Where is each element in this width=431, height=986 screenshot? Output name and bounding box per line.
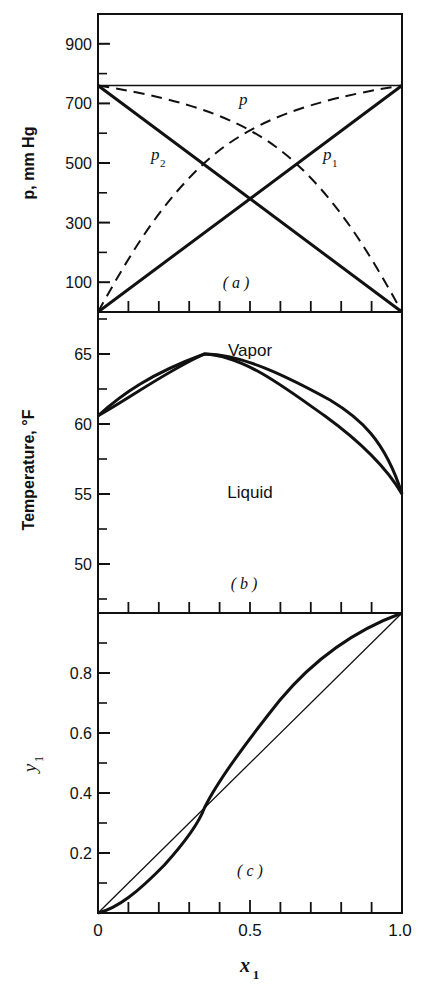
- x-axis-label-base: x: [239, 954, 250, 976]
- panel-c-ytick-02: 0.2: [70, 845, 92, 862]
- panel-c-ylabel: y 1: [19, 756, 46, 774]
- panel-a-y-major-ticks: [98, 44, 110, 282]
- panel-c-ylabel-base: y: [19, 763, 40, 774]
- panel-a-x-ticks: [128, 301, 371, 312]
- x-axis-label: x 1: [239, 954, 259, 982]
- panel-a-ytick-300: 300: [65, 215, 92, 232]
- panel-a-ylabel-text: p, mm Hg: [20, 127, 37, 200]
- panel-a-ytick-100: 100: [65, 274, 92, 291]
- panel-b-ylabel-text: Temperature, °F: [20, 409, 37, 530]
- panel-c-x-ticks: [128, 900, 371, 913]
- panel-c: 0.2 0.4 0.6 0.8 ( c ) y 1: [19, 613, 402, 913]
- panel-b-tag: ( b ): [231, 575, 258, 593]
- panel-c-tag: ( c ): [237, 862, 263, 880]
- panel-c-ylabel-sub: 1: [32, 756, 46, 762]
- panel-b-y-minor-ticks: [98, 319, 107, 599]
- panel-a-frame: [98, 14, 402, 312]
- panel-b-ytick-50: 50: [74, 556, 92, 573]
- x-axis: 0 0.5 1.0 x 1: [93, 921, 412, 982]
- panel-b-dew-point-curve: [98, 354, 402, 494]
- panel-a-label-p2: p 2: [150, 145, 166, 169]
- xtick-10: 1.0: [388, 921, 412, 940]
- panel-a-label-p: p: [238, 90, 248, 109]
- xtick-0: 0: [93, 921, 102, 940]
- panel-b-ytick-55: 55: [74, 486, 92, 503]
- x-axis-label-sub: 1: [253, 967, 260, 982]
- panel-a-tag: ( a ): [223, 274, 250, 292]
- panel-b-label-vapor: Vapor: [228, 341, 272, 360]
- panel-c-ytick-04: 0.4: [70, 785, 92, 802]
- panel-a: 100 300 500 700 900 p p: [20, 14, 402, 312]
- panel-b-ylabel: Temperature, °F: [20, 409, 37, 530]
- panel-a-ytick-500: 500: [65, 155, 92, 172]
- vle-figure: 100 300 500 700 900 p p: [0, 0, 431, 986]
- panel-c-y-minor-ticks: [98, 643, 107, 883]
- panel-b-label-liquid: Liquid: [227, 483, 272, 502]
- panel-b-ytick-60: 60: [74, 416, 92, 433]
- panel-a-ylabel: p, mm Hg: [20, 127, 37, 200]
- panel-b-x-ticks: [128, 602, 371, 613]
- panel-a-label-p2-sub: 2: [160, 157, 166, 169]
- panel-a-label-p1-base: p: [322, 145, 332, 164]
- panel-a-ytick-900: 900: [65, 36, 92, 53]
- figure-svg: 100 300 500 700 900 p p: [0, 0, 431, 986]
- panel-b-bubble-point-curve: [98, 354, 402, 494]
- panel-a-ytick-700: 700: [65, 95, 92, 112]
- panel-b-ytick-65: 65: [74, 346, 92, 363]
- panel-b: 50 55 60 65 Vapor Liquid ( b ) Temperatu…: [20, 312, 402, 613]
- panel-a-label-p2-base: p: [150, 145, 160, 164]
- panel-c-ytick-08: 0.8: [70, 665, 92, 682]
- panel-a-label-p1-sub: 1: [332, 157, 338, 169]
- panel-a-label-p1: p 1: [322, 145, 338, 169]
- xtick-05: 0.5: [238, 921, 262, 940]
- panel-c-ytick-06: 0.6: [70, 725, 92, 742]
